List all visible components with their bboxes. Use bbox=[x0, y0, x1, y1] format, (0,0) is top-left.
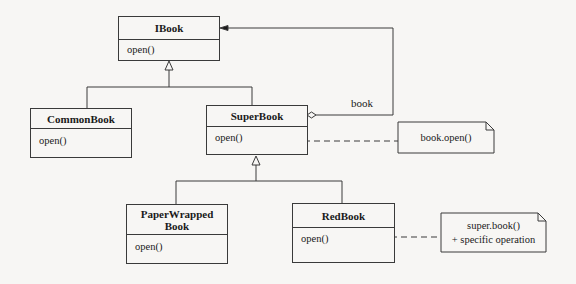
class-name: PaperWrapped Book bbox=[127, 205, 227, 235]
generalization-arrow-ibook bbox=[165, 61, 173, 70]
class-superbook[interactable]: SuperBook open() bbox=[206, 105, 308, 155]
note-redbook: super.book() + specific operation bbox=[441, 213, 546, 252]
association-role-label: book bbox=[351, 97, 373, 109]
note-text-line1: super.book() bbox=[467, 219, 520, 233]
class-operation: open() bbox=[119, 40, 219, 60]
class-operation: open() bbox=[127, 235, 227, 263]
class-ibook[interactable]: IBook open() bbox=[118, 16, 220, 61]
class-operation: open() bbox=[207, 127, 307, 154]
class-name-line2: Book bbox=[165, 220, 189, 232]
class-name: IBook bbox=[119, 17, 219, 40]
aggregation-diamond bbox=[307, 112, 316, 118]
class-paperwrappedbook[interactable]: PaperWrapped Book open() bbox=[126, 204, 228, 264]
navigation-arrowhead bbox=[220, 26, 228, 31]
generalization-superbook bbox=[176, 165, 342, 204]
generalization-arrow-superbook bbox=[252, 156, 260, 165]
class-name: RedBook bbox=[293, 204, 394, 228]
class-operation: open() bbox=[31, 129, 131, 157]
class-name: SuperBook bbox=[207, 106, 307, 127]
note-superbook: book.open() bbox=[398, 122, 494, 153]
generalization-ibook bbox=[87, 70, 252, 108]
class-name: CommonBook bbox=[31, 109, 131, 129]
class-operation: open() bbox=[293, 228, 394, 262]
class-commonbook[interactable]: CommonBook open() bbox=[30, 108, 132, 158]
class-name-line1: PaperWrapped bbox=[141, 208, 214, 220]
class-redbook[interactable]: RedBook open() bbox=[292, 203, 395, 263]
note-text: book.open() bbox=[420, 131, 471, 145]
note-text-line2: + specific operation bbox=[452, 233, 535, 247]
